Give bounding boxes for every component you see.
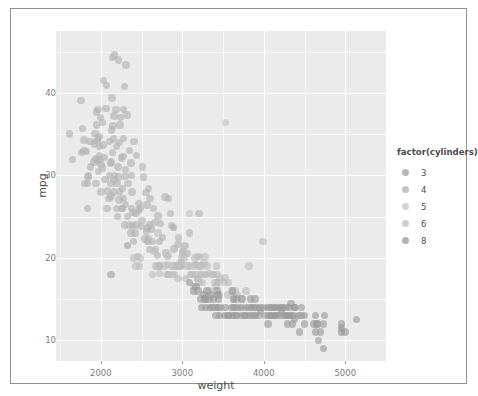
scatter-point [102, 105, 109, 112]
legend-label: 8 [421, 236, 426, 246]
scatter-point [69, 156, 76, 163]
scatter-point [157, 220, 164, 227]
scatter-point [150, 248, 157, 255]
scatter-point [123, 111, 130, 118]
scatter-point [79, 125, 86, 132]
legend-key [397, 215, 414, 232]
y-axis-title: mpg [36, 166, 49, 206]
scatter-point [94, 106, 101, 113]
scatter-point [165, 252, 172, 259]
x-tick-label: 3000 [162, 368, 202, 378]
scatter-point [199, 279, 206, 286]
scatter-point [138, 217, 145, 224]
scatter-point [154, 229, 161, 236]
scatter-point [195, 210, 202, 217]
scatter-point [201, 253, 208, 260]
scatter-point [353, 316, 360, 323]
legend-swatch-circle-icon [402, 186, 409, 193]
scatter-point [301, 312, 308, 319]
scatter-point [66, 130, 73, 137]
scatter-point [167, 210, 174, 217]
scatter-point [84, 205, 91, 212]
scatter-point [301, 320, 308, 327]
scatter-point [225, 279, 232, 286]
scatter-point [180, 254, 187, 261]
scatter-point [264, 320, 271, 327]
legend-entry[interactable]: 8 [397, 232, 473, 249]
scatter-point [119, 153, 126, 160]
scatter-point [251, 295, 258, 302]
scatter-point [130, 138, 137, 145]
legend-label: 3 [421, 168, 426, 178]
x-tick-mark [345, 361, 346, 364]
x-tick-mark [182, 361, 183, 364]
x-axis-title: weight [46, 379, 386, 392]
scatter-point [103, 82, 110, 89]
scatter-point [107, 271, 114, 278]
scatter-point [146, 195, 153, 202]
scatter-point [150, 205, 157, 212]
scatter-point [126, 147, 133, 154]
scatter-point [229, 287, 236, 294]
scatter-point [154, 212, 161, 219]
scatter-point [112, 106, 119, 113]
scatter-point [133, 152, 140, 159]
legend-key [397, 164, 414, 181]
legend-key [397, 198, 414, 215]
legend-key [397, 181, 414, 198]
scatter-point [127, 159, 134, 166]
scatter-point [245, 262, 252, 269]
scatter-point [92, 180, 99, 187]
legend-entry[interactable]: 3 [397, 164, 473, 181]
y-tick-label: 40 [30, 88, 56, 98]
scatter-point [145, 185, 152, 192]
scatter-point [84, 180, 91, 187]
legend-label: 5 [421, 202, 426, 212]
scatter-point [315, 337, 322, 344]
legend-entries: 34568 [397, 164, 473, 249]
x-tick-mark [264, 361, 265, 364]
scatter-point [321, 312, 328, 319]
scatter-point [338, 320, 345, 327]
scatter-point [120, 135, 127, 142]
scatter-point [99, 164, 106, 171]
legend-entry[interactable]: 5 [397, 198, 473, 215]
legend-title: factor(cylinders) [397, 147, 473, 157]
scatter-point [140, 173, 147, 180]
scatter-point [186, 210, 193, 217]
scatter-points-layer [56, 31, 386, 361]
scatter-point [222, 119, 229, 126]
x-tick-mark [101, 361, 102, 364]
legend-swatch-circle-icon [402, 220, 409, 227]
y-tick-label: 10 [30, 335, 56, 345]
legend-entry[interactable]: 4 [397, 181, 473, 198]
x-tick-label: 4000 [244, 368, 284, 378]
legend-swatch-circle-icon [402, 237, 409, 244]
scatter-point [114, 213, 121, 220]
scatter-point [122, 166, 129, 173]
scatter-point [312, 312, 319, 319]
scatter-point [128, 188, 135, 195]
legend-key [397, 232, 414, 249]
scatter-point [122, 61, 129, 68]
scatter-point [115, 56, 122, 63]
legend-label: 6 [421, 219, 426, 229]
legend-entry[interactable]: 6 [397, 215, 473, 232]
legend-swatch-circle-icon [402, 203, 409, 210]
scatter-point [298, 304, 305, 311]
x-tick-label: 5000 [325, 368, 365, 378]
scatter-point [128, 172, 135, 179]
scatter-point [77, 97, 84, 104]
scatter-point [116, 121, 123, 128]
scatter-point [139, 163, 146, 170]
scatter-point [175, 234, 182, 241]
x-tick-label: 2000 [81, 368, 121, 378]
plot-panel [56, 31, 386, 361]
scatter-point [124, 180, 131, 187]
scatter-point [174, 275, 181, 282]
scatter-point [320, 345, 327, 352]
scatter-point [83, 148, 90, 155]
legend-label: 4 [421, 185, 426, 195]
x-axis: 2000300040005000 [56, 361, 386, 379]
scatter-point [242, 287, 249, 294]
